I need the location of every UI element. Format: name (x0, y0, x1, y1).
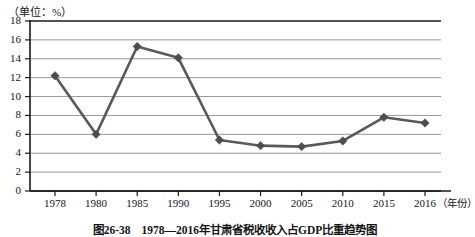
x-tick-label: 1978 (44, 197, 67, 209)
x-tick-label: 2016 (414, 197, 437, 209)
y-tick-label: 2 (16, 165, 22, 177)
y-tick-label: 8 (16, 108, 22, 120)
x-tick-label: 1980 (85, 197, 108, 209)
y-tick-label: 12 (10, 71, 21, 83)
y-tick-group: 024681012141618 (10, 14, 30, 196)
x-tick-label: 1985 (126, 197, 149, 209)
data-point-marker (297, 142, 305, 150)
y-tick-label: 18 (10, 14, 22, 26)
x-tick-label: 2015 (373, 197, 396, 209)
y-tick-label: 16 (10, 33, 22, 45)
data-point-marker (421, 119, 429, 127)
gridlines-group (30, 21, 441, 191)
y-tick-label: 4 (16, 146, 22, 158)
x-tick-label: 2000 (250, 197, 273, 209)
y-tick-label: 0 (16, 184, 22, 196)
y-tick-label: 6 (16, 127, 22, 139)
figure-caption: 图26-38 1978—2016年甘肃省税收收入占GDP比重趋势图 (0, 221, 470, 237)
x-tick-label: 2010 (332, 197, 355, 209)
data-point-marker (256, 141, 264, 149)
x-tick-label: 2005 (291, 197, 314, 209)
data-point-marker (174, 54, 182, 62)
y-tick-label: 14 (10, 52, 22, 64)
x-tick-label: 1995 (208, 197, 231, 209)
x-tick-label: 1990 (167, 197, 190, 209)
data-point-marker (133, 42, 141, 50)
axes-group (30, 20, 451, 191)
data-point-marker (215, 136, 223, 144)
y-tick-label: 10 (10, 90, 22, 102)
x-axis-unit-label: （年份） (437, 195, 475, 210)
x-tick-group: 1978198019851990199520002005201020152016 (44, 191, 437, 209)
